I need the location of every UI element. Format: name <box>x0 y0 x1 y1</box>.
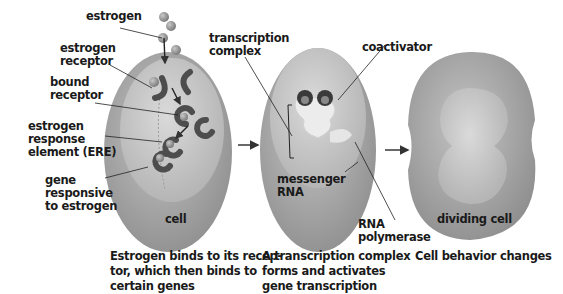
label-transcription-complex: transcription complex <box>209 32 289 58</box>
caption-line: gene transcription <box>262 279 410 294</box>
label-bound-receptor: bound receptor <box>50 76 103 102</box>
label-estrogen-receptor: estrogen receptor <box>60 42 116 68</box>
label-rna-polymerase: RNA polymerase <box>358 218 430 244</box>
label-estrogen: estrogen <box>86 10 142 23</box>
caption-step-1: Estrogen binds to its recep- tor, which … <box>110 249 282 294</box>
label-coactivator: coactivator <box>362 41 432 54</box>
caption-line: certain genes <box>110 279 282 294</box>
label-cell: cell <box>165 213 186 226</box>
label-line: polymerase <box>358 231 430 244</box>
label-messenger-rna: messenger RNA <box>277 173 345 199</box>
caption-line: A transcription complex <box>262 249 410 264</box>
label-ere: estrogen response element (ERE) <box>28 120 116 159</box>
caption-line: tor, which then binds to <box>110 264 282 279</box>
label-gene: gene responsive to estrogen <box>45 174 117 213</box>
label-line: RNA <box>277 186 345 199</box>
caption-step-3: Cell behavior changes <box>415 249 552 264</box>
label-line: element (ERE) <box>28 146 116 159</box>
caption-line: Cell behavior changes <box>415 249 552 264</box>
label-line: to estrogen <box>45 200 117 213</box>
label-line: complex <box>209 45 289 58</box>
label-line: receptor <box>50 89 103 102</box>
label-dividing-cell: dividing cell <box>437 213 512 226</box>
caption-step-2: A transcription complex forms and activa… <box>262 249 410 294</box>
caption-line: forms and activates <box>262 264 410 279</box>
label-line: receptor <box>60 55 116 68</box>
caption-line: Estrogen binds to its recep- <box>110 249 282 264</box>
